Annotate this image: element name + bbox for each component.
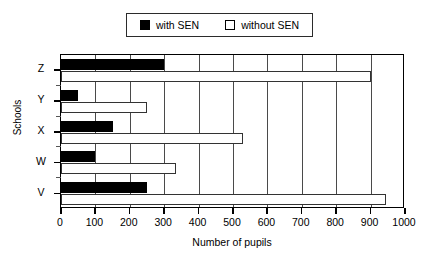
x-axis-label-0: 0 <box>57 217 63 228</box>
x-axis-label-500: 500 <box>223 217 241 228</box>
legend-entry-without-sen: without SEN <box>225 20 299 31</box>
x-axis: 01002003004005006007008009001000 <box>60 208 404 209</box>
x-axis-tick-700 <box>301 208 303 214</box>
bar-series-group <box>61 55 403 207</box>
x-axis-tick-1000 <box>404 208 406 214</box>
y-axis-minor-tick <box>56 146 61 147</box>
y-axis-minor-tick <box>56 85 61 86</box>
bar-without-sen-w <box>61 163 176 174</box>
bar-with-sen-x <box>61 121 113 132</box>
x-axis-tick-900 <box>370 208 372 214</box>
x-axis-title: Number of pupils <box>60 236 404 248</box>
y-axis-label-y: Y <box>30 94 52 105</box>
y-axis-title: Schools <box>12 88 23 148</box>
x-axis-tick-600 <box>266 208 268 214</box>
y-axis-minor-tick <box>56 177 61 178</box>
x-axis-tick-800 <box>335 208 337 214</box>
y-axis-tick-v <box>54 193 61 195</box>
x-axis-label-700: 700 <box>292 217 310 228</box>
x-axis-tick-200 <box>129 208 131 214</box>
y-axis-label-v: V <box>30 187 52 198</box>
filled-square-icon <box>140 20 150 30</box>
y-axis-category-labels: VWXYZ <box>28 0 52 267</box>
y-axis-label-x: X <box>30 125 52 136</box>
x-axis-label-1000: 1000 <box>392 217 415 228</box>
y-axis-tick-w <box>54 162 61 164</box>
hollow-square-icon <box>225 20 235 30</box>
bar-with-sen-v <box>61 182 147 193</box>
x-axis-label-200: 200 <box>120 217 138 228</box>
legend-entry-with-sen: with SEN <box>140 20 199 31</box>
bar-with-sen-y <box>61 90 78 101</box>
bar-without-sen-y <box>61 102 147 113</box>
y-axis-tick-z <box>54 69 61 71</box>
legend-label-without-sen: without SEN <box>241 20 299 31</box>
y-axis-tick-y <box>54 100 61 102</box>
x-axis-tick-400 <box>198 208 200 214</box>
x-axis-tick-100 <box>94 208 96 214</box>
y-axis-tick-x <box>54 131 61 133</box>
x-axis-label-900: 900 <box>361 217 379 228</box>
legend-label-with-sen: with SEN <box>156 20 199 31</box>
y-axis-minor-tick <box>56 116 61 117</box>
x-axis-tick-0 <box>60 208 62 214</box>
bar-with-sen-z <box>61 59 164 70</box>
x-axis-label-800: 800 <box>326 217 344 228</box>
x-axis-tick-300 <box>163 208 165 214</box>
bar-without-sen-z <box>61 71 371 82</box>
x-axis-tick-500 <box>232 208 234 214</box>
x-axis-label-400: 400 <box>189 217 207 228</box>
y-axis-label-z: Z <box>30 63 52 74</box>
chart-legend: with SEN without SEN <box>126 13 313 37</box>
plot-area <box>60 54 404 208</box>
x-axis-label-100: 100 <box>86 217 104 228</box>
x-axis-label-300: 300 <box>154 217 172 228</box>
bar-with-sen-w <box>61 151 95 162</box>
y-axis-label-w: W <box>30 156 52 167</box>
x-axis-label-600: 600 <box>258 217 276 228</box>
bar-without-sen-x <box>61 133 243 144</box>
bar-without-sen-v <box>61 194 386 205</box>
